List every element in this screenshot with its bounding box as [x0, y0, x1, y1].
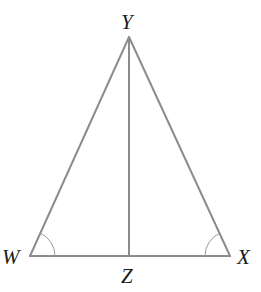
angle-arc-w — [40, 233, 55, 256]
triangle-diagram: Y W X Z — [0, 0, 261, 292]
label-z: Z — [121, 264, 133, 288]
angle-arc-x — [205, 233, 220, 256]
segment-yx — [129, 37, 230, 256]
segment-wy — [30, 37, 129, 256]
label-w: W — [2, 245, 22, 269]
label-y: Y — [121, 10, 135, 34]
label-x: X — [236, 245, 251, 269]
